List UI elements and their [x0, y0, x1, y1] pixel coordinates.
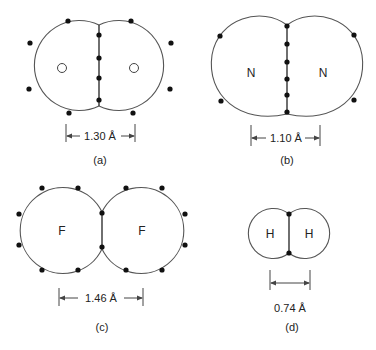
- molecular-orbital-figure: 1.30 Å (a) N N 1.10 Å (b): [0, 0, 376, 350]
- bond-length-label: 1.46 Å: [85, 292, 117, 304]
- panel-caption: (d): [285, 321, 298, 333]
- atom-outline-left: [34, 20, 99, 110]
- atom-label-left: H: [266, 227, 275, 241]
- bond-length-dimension: 1.10 Å: [251, 125, 320, 146]
- atom-label-left: F: [58, 224, 65, 238]
- atom-label-right: H: [305, 227, 314, 241]
- bond-length-dimension: 1.30 Å: [66, 124, 135, 142]
- panel-b: N N 1.10 Å (b): [211, 16, 362, 166]
- bond-length-dimension: 1.46 Å: [59, 288, 143, 306]
- atom-label-right: F: [138, 224, 145, 238]
- nucleus-marker-left: [58, 64, 67, 73]
- panel-caption: (a): [93, 154, 106, 166]
- atom-label-right: N: [319, 66, 328, 80]
- panel-a: 1.30 Å (a): [26, 18, 173, 166]
- panel-caption: (c): [96, 321, 109, 333]
- bond-length-label: 1.10 Å: [270, 132, 302, 144]
- atom-label-left: N: [247, 66, 256, 80]
- panel-c: F F 1.46 Å (c): [16, 185, 187, 333]
- bond-length-dimension: 0.74 Å: [270, 270, 310, 314]
- nucleus-marker-right: [130, 64, 139, 73]
- bond-length-label: 1.30 Å: [84, 130, 116, 142]
- panel-caption: (b): [280, 154, 293, 166]
- panel-d: H H 0.74 Å (d): [248, 209, 329, 333]
- bond-length-label: 0.74 Å: [274, 302, 306, 314]
